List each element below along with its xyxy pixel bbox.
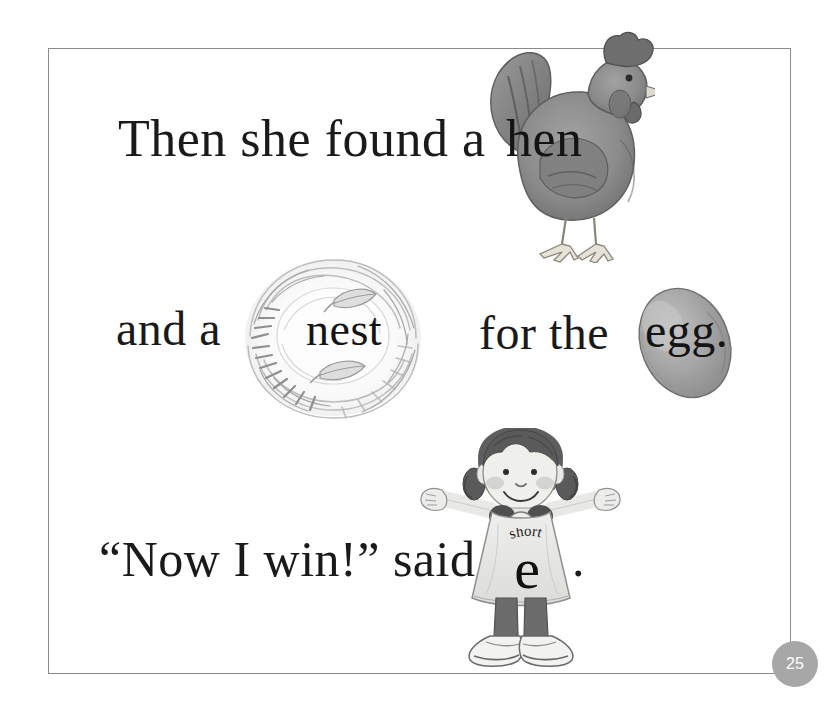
page-number-text: 25: [786, 656, 804, 672]
sentence-line-2-for-the: for the: [454, 305, 622, 360]
book-page: Then she found a: [0, 0, 837, 714]
overlay-word-hen: hen: [506, 113, 583, 165]
overlay-word-nest: nest: [306, 307, 382, 353]
overlay-word-egg: egg.: [645, 307, 728, 355]
girl-illustration: [418, 428, 623, 673]
girl-shoes: [469, 636, 573, 666]
sentence-line-1-text: Then she found a: [118, 113, 499, 165]
hen-comb: [604, 33, 653, 67]
sentence-line-2-text: and a: [116, 305, 234, 353]
hen-beak: [646, 86, 655, 98]
hen-eye: [626, 75, 633, 82]
girl-eye-left: [503, 469, 509, 475]
girl-eye-right: [531, 469, 537, 475]
girl-cheek-left: [486, 477, 504, 490]
page-number-badge: 25: [772, 641, 818, 687]
hen-legs: [562, 218, 596, 244]
girl-cheek-right: [536, 477, 554, 490]
hen-feet: [540, 244, 613, 263]
